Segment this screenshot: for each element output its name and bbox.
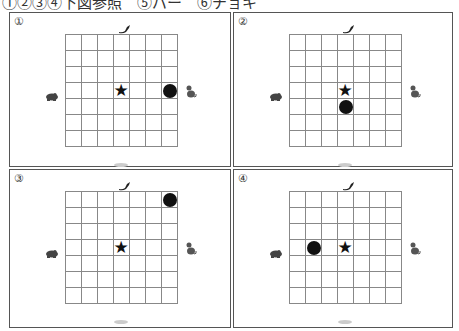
bird-icon xyxy=(118,176,132,195)
grid-cell xyxy=(66,208,82,224)
star-icon: ★ xyxy=(337,82,353,98)
grid-cell xyxy=(82,240,98,256)
grid-cell xyxy=(66,67,82,83)
grid-cell xyxy=(130,208,146,224)
grid-cell xyxy=(146,192,162,208)
grid-cell xyxy=(146,51,162,67)
grid-cell xyxy=(114,131,130,147)
grid-cell xyxy=(114,99,130,115)
puzzle-panel-2: ②★ xyxy=(233,12,453,167)
grid-cell xyxy=(322,131,338,147)
grid-cell xyxy=(370,288,386,304)
grid-cell xyxy=(290,51,306,67)
star-icon: ★ xyxy=(113,239,129,255)
grid-cell xyxy=(386,208,402,224)
grid-cell xyxy=(386,224,402,240)
grid-cell xyxy=(82,208,98,224)
grid-cell xyxy=(130,131,146,147)
circle-marker xyxy=(337,98,354,115)
grid-cell xyxy=(322,224,338,240)
grid-cell xyxy=(354,272,370,288)
grid-cell xyxy=(162,99,178,115)
grid-cell xyxy=(370,99,386,115)
frog-icon xyxy=(45,87,59,106)
grid-cell xyxy=(354,99,370,115)
grid-cell xyxy=(82,51,98,67)
grid-cell xyxy=(370,115,386,131)
grid-cell xyxy=(98,115,114,131)
grid-cell xyxy=(114,115,130,131)
grid-cell xyxy=(66,240,82,256)
frog-icon xyxy=(45,244,59,263)
grid-cell xyxy=(98,51,114,67)
bird-icon xyxy=(342,176,356,195)
grid-cell xyxy=(386,240,402,256)
grid-cell xyxy=(386,288,402,304)
grid-cell xyxy=(98,67,114,83)
grid-cell xyxy=(130,115,146,131)
grid-cell xyxy=(338,131,354,147)
frog-icon xyxy=(269,244,283,263)
grid-cell xyxy=(338,51,354,67)
grid-cell xyxy=(370,224,386,240)
grid-cell xyxy=(98,99,114,115)
grid-cell xyxy=(370,83,386,99)
grid-cell xyxy=(114,51,130,67)
grid-cell xyxy=(290,35,306,51)
grid-cell xyxy=(290,67,306,83)
grid-cell xyxy=(306,256,322,272)
panel-label: ③ xyxy=(14,172,24,185)
grid-cell xyxy=(370,272,386,288)
grid-cell xyxy=(306,272,322,288)
grid-cell xyxy=(354,288,370,304)
grid-cell xyxy=(98,208,114,224)
grid-cell xyxy=(98,192,114,208)
grid-cell xyxy=(130,35,146,51)
grid-cell xyxy=(386,272,402,288)
grid-cell xyxy=(82,115,98,131)
grid-cell xyxy=(370,131,386,147)
grid-cell xyxy=(130,256,146,272)
panel-label: ④ xyxy=(238,172,248,185)
grid-cell xyxy=(290,99,306,115)
grid-cell xyxy=(306,192,322,208)
grid-cell xyxy=(306,131,322,147)
grid-cell xyxy=(322,240,338,256)
circle-marker xyxy=(161,191,178,208)
grid-cell xyxy=(370,67,386,83)
grid-cell xyxy=(146,240,162,256)
grid-cell xyxy=(66,192,82,208)
grid-cell xyxy=(162,131,178,147)
grid-cell xyxy=(130,240,146,256)
mouse-icon xyxy=(409,241,421,260)
grid-cell xyxy=(322,99,338,115)
grid-cell xyxy=(66,131,82,147)
grid-cell xyxy=(162,272,178,288)
grid-cell xyxy=(146,208,162,224)
grid-cell xyxy=(82,224,98,240)
grid-cell xyxy=(306,115,322,131)
grid-cell xyxy=(162,240,178,256)
grid-cell xyxy=(162,288,178,304)
grid-cell xyxy=(322,51,338,67)
grid-cell xyxy=(290,131,306,147)
grid-cell xyxy=(290,272,306,288)
grid-cell xyxy=(98,240,114,256)
grid-cell xyxy=(82,192,98,208)
grid-cell xyxy=(306,83,322,99)
grid-cell xyxy=(338,208,354,224)
bird-icon xyxy=(118,19,132,38)
grid-cell xyxy=(146,131,162,147)
panel-label: ① xyxy=(14,15,24,28)
grid-cell xyxy=(114,256,130,272)
star-icon: ★ xyxy=(113,82,129,98)
grid-cell xyxy=(98,35,114,51)
grid-cell xyxy=(386,83,402,99)
grid-cell xyxy=(130,67,146,83)
grid-cell xyxy=(290,192,306,208)
puzzle-panel-4: ④★ xyxy=(233,169,453,328)
grid-cell xyxy=(354,131,370,147)
grid-cell xyxy=(146,99,162,115)
mouse-icon xyxy=(185,241,197,260)
grid-cell xyxy=(322,35,338,51)
